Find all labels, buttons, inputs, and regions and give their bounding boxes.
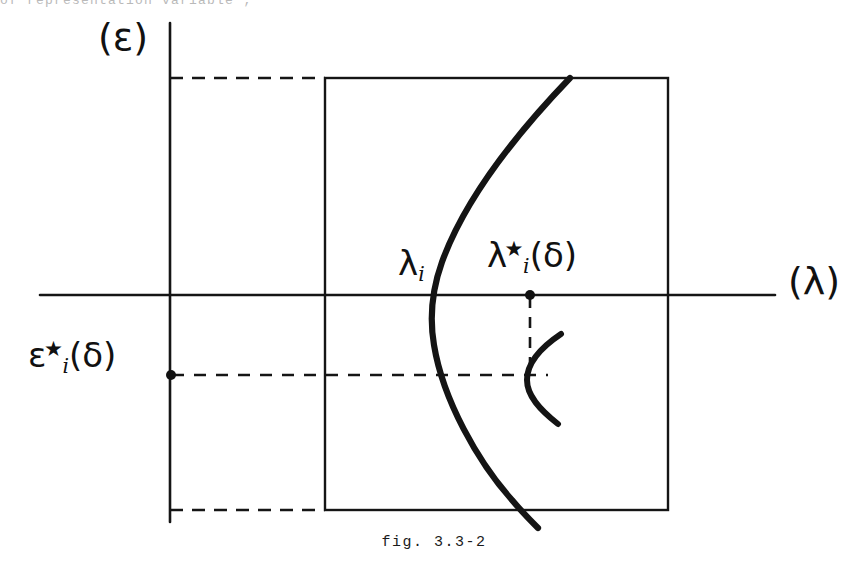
lambda-i-base: λ — [398, 243, 418, 283]
epsilon-star-argument: (δ) — [69, 335, 116, 375]
figure-caption-text: fig. 3.3-2 — [381, 534, 486, 551]
main-eigenvalue-locus-curve — [432, 78, 570, 528]
lambda-star-point-marker — [525, 290, 535, 300]
lambda-i-subscript: i — [418, 262, 425, 286]
horizontal-axis-label-text: (λ) — [788, 259, 840, 303]
figure-page: of representation variable ; (ε) (λ) — [0, 0, 868, 576]
vertical-axis-label: (ε) — [98, 18, 148, 56]
epsilon-star-point-marker — [166, 370, 176, 380]
horizontal-axis-label: (λ) — [788, 262, 840, 300]
epsilon-star-superscript: ★ — [44, 336, 63, 361]
lambda-i-label: λi — [398, 246, 425, 285]
lambda-i-star-delta-label: λ★i(δ) — [487, 238, 577, 277]
lambda-star-argument: (δ) — [530, 235, 577, 275]
lambda-star-superscript: ★ — [505, 236, 524, 261]
perturbed-locus-arc — [527, 334, 561, 424]
figure-drawing — [0, 0, 868, 576]
figure-caption: fig. 3.3-2 — [0, 534, 868, 551]
vertical-axis-label-text: (ε) — [98, 15, 148, 59]
epsilon-i-star-delta-label: ε★i(δ) — [28, 338, 116, 377]
